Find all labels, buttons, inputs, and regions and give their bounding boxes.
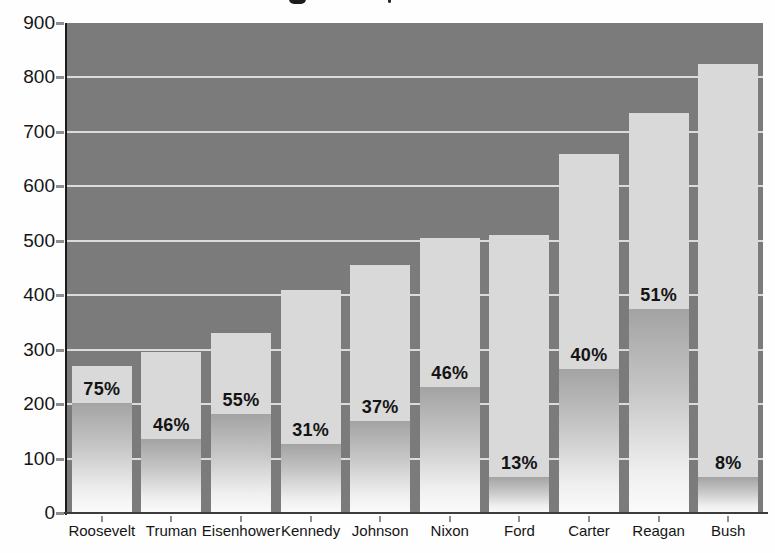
bar-lower-gradient-segment: [350, 421, 410, 513]
y-axis-tick: [56, 22, 64, 25]
bar-percent-label: 8%: [698, 453, 758, 474]
x-category-label-bush: Bush: [682, 521, 774, 541]
bar-reagan: 51%: [629, 113, 689, 513]
y-axis-tick-label: 500: [10, 230, 55, 252]
bar-roosevelt: 75%: [72, 366, 132, 513]
y-axis-tick: [56, 76, 64, 79]
y-axis-tick-label: 100: [10, 448, 55, 470]
y-axis-tick: [56, 294, 64, 297]
bar-ford: 13%: [489, 235, 549, 513]
y-axis-tick-label: 0: [10, 502, 55, 524]
bar-bush: 8%: [698, 64, 758, 513]
y-axis-tick-label: 600: [10, 175, 55, 197]
bar-chart-figure: 75%46%55%31%37%46%13%40%51%8% 0100200300…: [0, 0, 775, 553]
y-axis-tick: [56, 185, 64, 188]
y-axis-tick-label: 900: [10, 12, 55, 34]
y-axis-tick: [56, 349, 64, 352]
y-axis-tick: [56, 131, 64, 134]
bar-lower-gradient-segment: [281, 444, 341, 513]
bar-carter: 40%: [559, 154, 619, 513]
y-axis-tick-label: 700: [10, 121, 55, 143]
bar-upper-segment: [629, 113, 689, 309]
bar-percent-label: 40%: [559, 345, 619, 366]
y-axis-tick: [56, 403, 64, 406]
gridline-800: [67, 76, 763, 78]
bar-percent-label: 46%: [420, 363, 480, 384]
y-axis-tick-label: 400: [10, 284, 55, 306]
x-axis-line: [56, 512, 768, 514]
plot-area: 75%46%55%31%37%46%13%40%51%8%: [67, 23, 763, 513]
y-axis-line: [65, 23, 67, 515]
bar-percent-label: 46%: [141, 415, 201, 436]
y-axis-tick-label: 800: [10, 66, 55, 88]
y-axis-tick-label: 200: [10, 393, 55, 415]
bar-nixon: 46%: [420, 238, 480, 513]
bar-percent-label: 31%: [281, 420, 341, 441]
bar-percent-label: 37%: [350, 397, 410, 418]
y-axis-tick: [56, 240, 64, 243]
cropped-title-descender-mark: [289, 0, 306, 4]
bar-lower-gradient-segment: [629, 309, 689, 513]
bar-upper-segment: [698, 64, 758, 477]
bar-lower-gradient-segment: [141, 439, 201, 513]
bar-truman: 46%: [141, 352, 201, 513]
bar-percent-label: 51%: [629, 285, 689, 306]
y-axis-tick: [56, 512, 64, 515]
bar-percent-label: 75%: [72, 379, 132, 400]
bar-percent-label: 13%: [489, 453, 549, 474]
bar-upper-segment: [559, 154, 619, 370]
bar-lower-gradient-segment: [211, 414, 271, 513]
bar-upper-segment: [489, 235, 549, 477]
bar-lower-gradient-segment: [72, 403, 132, 513]
bar-percent-label: 55%: [211, 390, 271, 411]
bar-johnson: 37%: [350, 265, 410, 513]
bar-lower-gradient-segment: [420, 387, 480, 513]
bar-kennedy: 31%: [281, 290, 341, 513]
bar-lower-gradient-segment: [559, 369, 619, 513]
bar-eisenhower: 55%: [211, 333, 271, 513]
bar-lower-gradient-segment: [489, 477, 549, 513]
y-axis-tick: [56, 458, 64, 461]
cropped-title-descender-mark: [388, 0, 391, 3]
bar-lower-gradient-segment: [698, 477, 758, 513]
y-axis-tick-label: 300: [10, 339, 55, 361]
